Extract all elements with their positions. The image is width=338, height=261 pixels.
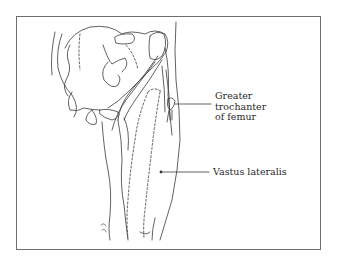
label-line: Vastus lateralis	[213, 167, 287, 178]
label-greater-trochanter: Greater trochanter of femur	[215, 91, 266, 123]
label-vastus-lateralis: Vastus lateralis	[213, 167, 287, 178]
anatomy-illustration	[0, 0, 338, 261]
label-line: Greater	[215, 91, 266, 102]
label-line: of femur	[215, 112, 266, 123]
